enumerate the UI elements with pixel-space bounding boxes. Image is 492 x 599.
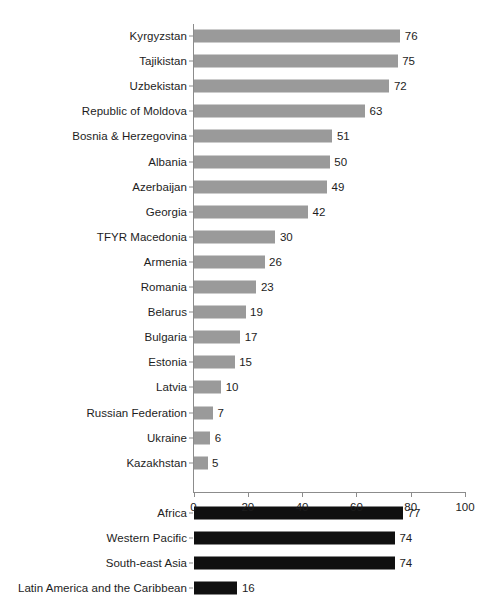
category-label: Romania (141, 281, 187, 294)
category-tick (189, 312, 193, 313)
bar (194, 230, 275, 243)
category-tick (189, 136, 193, 137)
category-tick (189, 211, 193, 212)
bar (194, 105, 365, 118)
bar (194, 356, 235, 369)
x-tick (411, 492, 412, 497)
bar-row: Estonia15 (0, 350, 492, 375)
category-tick (189, 462, 193, 463)
bar-row-spacer (0, 475, 492, 500)
x-tick (302, 492, 303, 497)
bar (194, 406, 213, 419)
category-label: Kazakhstan (126, 456, 187, 469)
x-tick-label: 40 (296, 500, 309, 514)
category-label: Western Pacific (107, 532, 187, 545)
category-label: Latvia (156, 381, 187, 394)
category-tick (189, 337, 193, 338)
category-label: Uzbekistan (130, 80, 187, 93)
category-label: Republic of Moldova (82, 105, 187, 118)
bar-row: Russian Federation7 (0, 400, 492, 425)
bar (194, 456, 208, 469)
bar-row: Latin America and the Caribbean16 (0, 576, 492, 599)
bar-row: Bosnia & Herzegovina51 (0, 124, 492, 149)
bar-value-label: 49 (332, 180, 345, 193)
bar-row: Tajikistan75 (0, 49, 492, 74)
category-tick (189, 437, 193, 438)
bar (194, 55, 398, 68)
x-tick (194, 492, 195, 497)
bar (194, 431, 210, 444)
category-tick (189, 538, 193, 539)
category-tick (189, 387, 193, 388)
bar-value-label: 72 (394, 80, 407, 93)
bar-row: Kazakhstan5 (0, 450, 492, 475)
bar-row: Albania50 (0, 149, 492, 174)
x-tick-label: 0 (190, 500, 196, 514)
x-tick-label: 80 (404, 500, 417, 514)
category-tick (189, 36, 193, 37)
bar-value-label: 5 (212, 456, 218, 469)
bar-value-label: 19 (250, 306, 263, 319)
bar (194, 331, 240, 344)
bar-value-label: 7 (218, 406, 224, 419)
category-label: Bulgaria (144, 331, 187, 344)
x-tick-label: 20 (241, 500, 254, 514)
category-tick (189, 111, 193, 112)
bar-value-label: 16 (242, 582, 255, 595)
category-tick (189, 261, 193, 262)
bar (194, 582, 237, 595)
bar-value-label: 63 (370, 105, 383, 118)
bar-value-label: 74 (399, 557, 412, 570)
bar-value-label: 10 (226, 381, 239, 394)
category-label: Armenia (144, 255, 187, 268)
bar (194, 180, 327, 193)
bar-value-label: 17 (245, 331, 258, 344)
x-tick (248, 492, 249, 497)
bar-value-label: 50 (334, 155, 347, 168)
bar (194, 255, 265, 268)
bar (194, 381, 221, 394)
bar (194, 80, 389, 93)
x-tick (465, 492, 466, 497)
bar-row: TFYR Macedonia30 (0, 224, 492, 249)
category-tick (189, 412, 193, 413)
bar-row: Georgia42 (0, 199, 492, 224)
category-tick (189, 186, 193, 187)
bar-value-label: 26 (269, 255, 282, 268)
bar (194, 30, 400, 43)
bar (194, 532, 395, 545)
bar-value-label: 76 (405, 30, 418, 43)
bar-row: Armenia26 (0, 249, 492, 274)
bar (194, 130, 332, 143)
category-tick (189, 362, 193, 363)
category-label: TFYR Macedonia (97, 230, 187, 243)
bar-row: South-east Asia74 (0, 551, 492, 576)
x-tick (356, 492, 357, 497)
bar-row: Bulgaria17 (0, 325, 492, 350)
bar-row: Belarus19 (0, 300, 492, 325)
bar-value-label: 51 (337, 130, 350, 143)
category-tick (189, 61, 193, 62)
category-tick (189, 588, 193, 589)
bar-row: Uzbekistan72 (0, 74, 492, 99)
category-label: South-east Asia (106, 557, 187, 570)
category-label: Albania (148, 155, 187, 168)
bar-value-label: 74 (399, 532, 412, 545)
bar-row: Azerbaijan49 (0, 174, 492, 199)
category-label: Bosnia & Herzegovina (72, 130, 187, 143)
category-label: Russian Federation (86, 406, 187, 419)
bar-value-label: 30 (280, 230, 293, 243)
bar-value-label: 42 (313, 205, 326, 218)
category-tick (189, 563, 193, 564)
category-label: Georgia (146, 205, 187, 218)
bar-row: Romania23 (0, 275, 492, 300)
category-label: Latin America and the Caribbean (18, 582, 187, 595)
bar (194, 557, 395, 570)
category-label: Estonia (148, 356, 187, 369)
bar-value-label: 6 (215, 431, 221, 444)
category-tick (189, 287, 193, 288)
category-label: Ukraine (147, 431, 187, 444)
bar-value-label: 75 (402, 55, 415, 68)
